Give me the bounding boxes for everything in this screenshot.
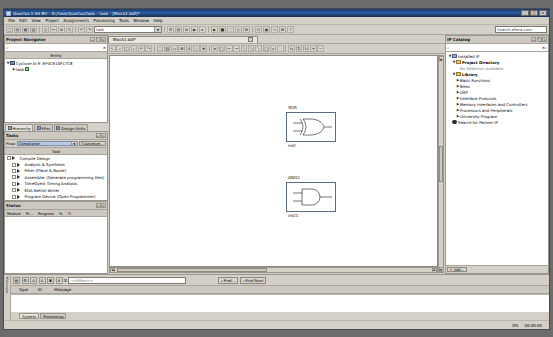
run-task-icon[interactable] (17, 175, 23, 179)
float-icon[interactable]: ❐ (96, 37, 101, 42)
partial-line-tool[interactable]: ▫ (270, 45, 277, 52)
menu-item-edit[interactable]: Edit (17, 18, 29, 23)
stop-button[interactable]: ■ (219, 26, 226, 33)
canvas-hscrollbar[interactable]: ◀ ▶ (109, 267, 438, 273)
task-checkbox[interactable] (12, 175, 16, 179)
filter-icon[interactable]: ∇ (64, 278, 67, 283)
close-icon[interactable]: × (101, 203, 106, 208)
zoom-tool[interactable]: ⌕ (116, 45, 123, 52)
megawizard-button[interactable]: ⌘ (279, 26, 286, 33)
close-button[interactable]: × (539, 10, 547, 16)
messages-vtab-label[interactable]: Messages (5, 277, 9, 294)
float-icon[interactable]: ❐ (537, 37, 542, 42)
timing-analyzer-button[interactable]: ◴ (235, 26, 242, 33)
document-tab-block1[interactable]: Block1.bdf* (108, 36, 258, 44)
chevron-down-icon[interactable]: ▼ (154, 27, 161, 32)
warning-messages-button[interactable]: ⚠ (30, 277, 37, 284)
task-checkbox[interactable] (12, 169, 16, 173)
block-tool[interactable]: ▭ (171, 45, 178, 52)
filter-input[interactable]: <<Filter>> (68, 277, 186, 284)
zoom-in-tool[interactable]: + (310, 45, 317, 52)
diagonal-node-tool[interactable]: ╲ (241, 45, 248, 52)
start-analysis-button[interactable]: ▸ (199, 26, 206, 33)
ip-search-row[interactable]: ⌕ × ⌕ (446, 44, 548, 52)
task-checkbox[interactable] (12, 182, 16, 186)
diagonal-conduit-tool[interactable]: ╲ (255, 45, 262, 52)
scroll-left-button[interactable]: ◀ (110, 268, 115, 273)
run-task-icon[interactable] (12, 156, 18, 160)
menu-item-file[interactable]: File (6, 18, 17, 23)
search-button[interactable]: ⌕ (545, 45, 547, 50)
menu-item-view[interactable]: View (29, 18, 43, 23)
print-button[interactable]: ⎙ (42, 26, 49, 33)
redo-button[interactable]: ↷ (86, 26, 93, 33)
close-icon[interactable] (248, 37, 253, 42)
task-checkbox[interactable] (12, 188, 16, 192)
canvas-vscrollbar[interactable]: ▲ ▼ (438, 55, 444, 273)
tree-row-entity[interactable]: ▶ task (6, 66, 107, 72)
messages-list[interactable] (11, 294, 549, 312)
orthogonal-bus-tool[interactable]: ¬ (233, 45, 240, 52)
run-task-icon[interactable] (17, 195, 23, 199)
node-tool[interactable]: ○ (193, 45, 200, 52)
bus-tool[interactable]: ≡ (200, 45, 207, 52)
find-tool[interactable]: ⌕ (131, 45, 138, 52)
run-task-icon[interactable] (17, 163, 23, 167)
error-messages-button[interactable]: ✖ (47, 277, 54, 284)
orthogonal-node-tool[interactable]: ⌐ (226, 45, 233, 52)
megafunction-tool[interactable]: ⌘ (178, 45, 185, 52)
task-checkbox[interactable] (12, 195, 16, 199)
info-messages-button[interactable]: ℹ (56, 277, 63, 284)
programmer-button[interactable]: ⬚ (227, 26, 234, 33)
close-icon[interactable]: × (542, 37, 547, 42)
help-button[interactable]: ? (287, 26, 294, 33)
menu-item-project[interactable]: Project (43, 18, 61, 23)
rubber-band-tool[interactable]: □ (263, 45, 270, 52)
menu-item-help[interactable]: Help (151, 18, 165, 23)
task-list[interactable]: Compile DesignAnalysis & SynthesisFitter… (5, 155, 107, 200)
select-tool[interactable]: ⬚ (157, 45, 164, 52)
project-search-row[interactable]: ⌕ × (5, 44, 107, 52)
navigator-tab-files[interactable]: Files (34, 124, 52, 131)
menu-item-tools[interactable]: Tools (117, 18, 131, 23)
compile-button[interactable]: ▶ (191, 26, 198, 33)
search-altera-input[interactable]: Search altera.com (495, 26, 547, 33)
flip-horizontal-tool[interactable]: ⇆ (288, 45, 295, 52)
open-file-button[interactable]: ▤ (14, 26, 21, 33)
symbol-tool[interactable]: ▧ (164, 45, 171, 52)
chevron-down-icon[interactable]: ▼ (71, 142, 77, 146)
zoom-out-tool[interactable]: − (317, 45, 324, 52)
run-task-icon[interactable] (17, 182, 23, 186)
hierarchy-tree[interactable]: ▼ Cyclone IV E: EP4CE10F17C8 ▶ task (5, 59, 107, 122)
ip-tree-row[interactable]: Search for Partner IP (447, 119, 548, 125)
rectangle-tool[interactable]: □ (219, 45, 226, 52)
find-button[interactable]: ⌕Find... (218, 277, 238, 284)
flow-select[interactable]: Compilation ▼ (17, 141, 78, 147)
pin-icon[interactable]: ↤ (96, 133, 101, 138)
task-row[interactable]: Program Device (Open Programmer) (5, 193, 107, 199)
message-column-header[interactable]: ID (28, 287, 42, 292)
technology-map-button[interactable]: ⊡ (255, 26, 262, 33)
assignment-editor-button[interactable]: ▤ (175, 26, 182, 33)
paste-button[interactable]: ⎘ (66, 26, 73, 33)
pin-icon[interactable]: ↤ (96, 203, 101, 208)
fit-page-tool[interactable]: ▢ (124, 45, 131, 52)
scroll-up-button[interactable]: ▲ (439, 56, 444, 61)
rtl-viewer-button[interactable]: ⊞ (243, 26, 250, 33)
chip-planner-button[interactable]: ▣ (263, 26, 270, 33)
pin-planner-button[interactable]: ⧉ (183, 26, 190, 33)
minimize-button[interactable]: _ (521, 10, 529, 16)
text-tool[interactable]: A (186, 45, 193, 52)
messages-tab-system[interactable]: System (19, 313, 39, 320)
vscroll-thumb[interactable] (439, 146, 444, 182)
pointer-tool[interactable]: ↖ (109, 45, 116, 52)
arc-tool[interactable]: ◝ (277, 45, 284, 52)
clear-search-icon[interactable]: × (103, 45, 106, 50)
cut-button[interactable]: ✂ (50, 26, 57, 33)
rotate-tool[interactable]: ↻ (303, 45, 310, 52)
undo-tool[interactable]: ↶ (138, 45, 145, 52)
message-column-header[interactable]: Type (11, 287, 28, 292)
conduit-tool[interactable]: ⪰ (211, 45, 218, 52)
navigator-tab-hierarchy[interactable]: Hierarchy (5, 124, 33, 131)
menu-item-window[interactable]: Window (131, 18, 151, 23)
